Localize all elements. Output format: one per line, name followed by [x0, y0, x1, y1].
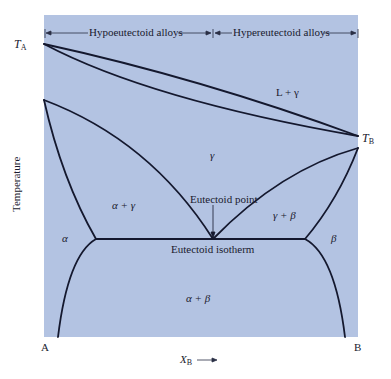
eutectoid-point-label: Eutectoid point — [190, 194, 258, 205]
gamma-beta-lower — [305, 148, 358, 239]
region-alpha-beta: α + β — [186, 293, 210, 304]
region-alpha-gamma: α + γ — [112, 200, 135, 211]
tb-label: TB — [362, 132, 374, 146]
beta-solvus — [305, 239, 345, 337]
eutectoid-point-arrow — [211, 205, 215, 238]
phase-boundaries — [0, 0, 391, 379]
hypereutectoid-label: Hypereutectoid alloys — [233, 27, 330, 38]
xb-arrow — [197, 358, 217, 362]
region-alpha: α — [62, 233, 68, 244]
hypoeutectoid-label: Hypoeutectoid alloys — [89, 27, 183, 38]
y-axis-title: Temperature — [10, 157, 22, 212]
region-l-gamma: L + γ — [276, 87, 299, 98]
region-beta: β — [331, 233, 336, 244]
ta-label: TA — [14, 38, 26, 52]
alpha-gamma-upper — [44, 100, 213, 239]
component-b-label: B — [354, 342, 361, 353]
eutectoid-isotherm-label: Eutectoid isotherm — [171, 244, 254, 255]
region-gamma-beta: γ + β — [273, 210, 296, 221]
x-axis-title: XB — [180, 354, 192, 367]
region-gamma: γ — [210, 150, 214, 161]
alpha-solvus — [58, 239, 96, 337]
component-a-label: A — [41, 342, 49, 353]
